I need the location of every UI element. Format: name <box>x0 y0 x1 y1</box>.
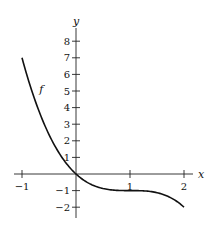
y-axis-label: y <box>72 15 80 28</box>
axes <box>14 28 193 218</box>
y-tick-label: 4 <box>64 102 70 113</box>
y-tick-label: 7 <box>64 52 70 63</box>
y-tick-label: −2 <box>55 202 70 213</box>
ticks: −112−2−112345678 <box>15 36 188 213</box>
y-tick-label: 5 <box>64 86 70 97</box>
y-tick-label: −1 <box>55 185 70 196</box>
y-tick-label: 2 <box>64 135 70 146</box>
function-label-f: f <box>38 83 45 96</box>
y-tick-label: 8 <box>64 36 70 47</box>
function-graph: −112−2−112345678 f x y <box>0 0 212 229</box>
x-tick-label: −1 <box>15 181 30 192</box>
y-tick-label: 6 <box>64 69 70 80</box>
x-axis-label: x <box>198 168 205 181</box>
x-tick-label: 2 <box>181 181 187 192</box>
curve-f <box>22 58 184 207</box>
y-tick-label: 3 <box>64 119 70 130</box>
